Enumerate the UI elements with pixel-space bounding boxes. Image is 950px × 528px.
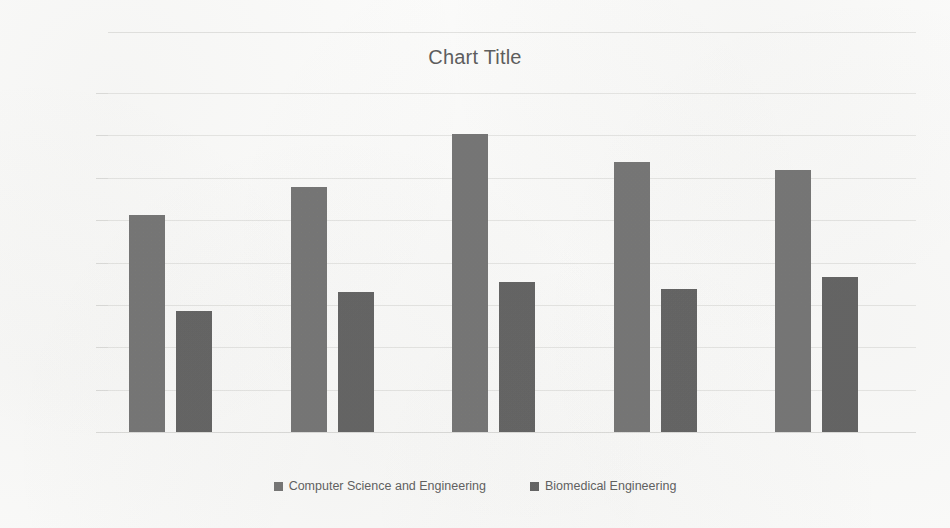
legend-swatch-icon bbox=[530, 482, 539, 491]
bar[interactable] bbox=[614, 162, 650, 432]
plot-top-border bbox=[108, 32, 916, 33]
y-axis-tick-mark bbox=[96, 432, 108, 433]
legend-swatch-icon bbox=[274, 482, 283, 491]
gridline bbox=[108, 432, 916, 433]
chart-legend: Computer Science and Engineering Biomedi… bbox=[0, 479, 950, 493]
bar[interactable] bbox=[452, 134, 488, 432]
bar[interactable] bbox=[129, 215, 165, 432]
bar[interactable] bbox=[499, 282, 535, 432]
y-axis-tick-mark bbox=[96, 135, 108, 136]
chart-title: Chart Title bbox=[0, 46, 950, 69]
bar-chart: Chart Title 4003503002502001501005002015… bbox=[0, 0, 950, 528]
legend-label: Biomedical Engineering bbox=[545, 479, 676, 493]
bar-group-2017 bbox=[431, 93, 593, 432]
bar-group-2018 bbox=[593, 93, 755, 432]
bar[interactable] bbox=[176, 311, 212, 432]
legend-item-biomedical-engineering[interactable]: Biomedical Engineering bbox=[530, 479, 676, 493]
y-axis-tick-mark bbox=[96, 93, 108, 94]
legend-label: Computer Science and Engineering bbox=[289, 479, 486, 493]
y-axis-tick-mark bbox=[96, 390, 108, 391]
bar[interactable] bbox=[291, 187, 327, 432]
legend-item-computer-science-and-engineering[interactable]: Computer Science and Engineering bbox=[274, 479, 486, 493]
y-axis-tick-mark bbox=[96, 347, 108, 348]
plot-area: 4003503002502001501005002015201620172018… bbox=[108, 93, 916, 432]
bar-group-2015 bbox=[108, 93, 270, 432]
bar-group-2019 bbox=[754, 93, 916, 432]
bar[interactable] bbox=[822, 277, 858, 432]
bar-group-2016 bbox=[270, 93, 432, 432]
bar[interactable] bbox=[338, 292, 374, 432]
y-axis-tick-mark bbox=[96, 263, 108, 264]
y-axis-tick-mark bbox=[96, 305, 108, 306]
bar[interactable] bbox=[661, 289, 697, 432]
y-axis-tick-mark bbox=[96, 178, 108, 179]
bar[interactable] bbox=[775, 170, 811, 432]
y-axis-tick-mark bbox=[96, 220, 108, 221]
